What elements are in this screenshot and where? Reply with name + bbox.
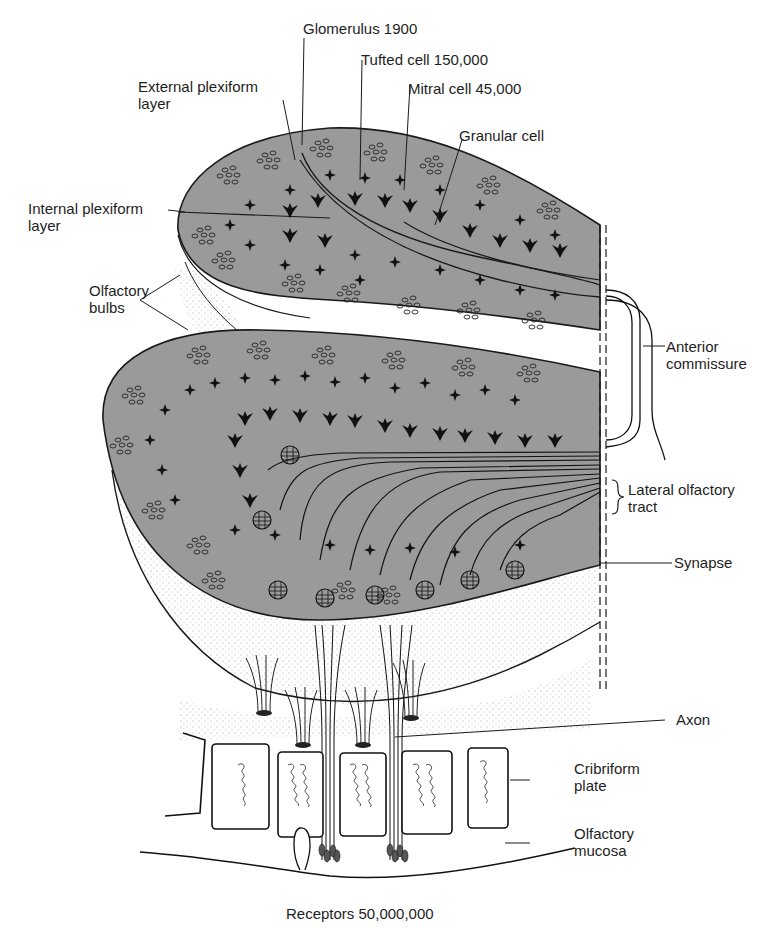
label-external-plexiform-layer: External plexiform layer <box>138 78 258 112</box>
label-line: commissure <box>666 355 747 372</box>
label-tufted-cell: Tufted cell 150,000 <box>361 51 488 68</box>
olfactory-mucosa-surface <box>140 848 575 878</box>
label-olfactory-mucosa: Olfactory mucosa <box>574 825 634 859</box>
lateral-tract-brace <box>612 480 624 514</box>
label-mitral-cell: Mitral cell 45,000 <box>408 80 521 97</box>
label-line: Cribriform <box>574 760 640 777</box>
label-glomerulus: Glomerulus 1900 <box>303 20 417 37</box>
label-line: Anterior <box>666 338 747 355</box>
olfactory-bulb-diagram <box>0 0 766 928</box>
label-line: Lateral olfactory <box>628 481 735 498</box>
label-line: Olfactory <box>574 825 634 842</box>
receptor-cells <box>319 844 408 862</box>
label-anterior-commissure: Anterior commissure <box>666 338 747 372</box>
label-line: Olfactory <box>89 282 149 299</box>
label-receptors: Receptors 50,000,000 <box>286 905 434 922</box>
cribriform-plate <box>165 733 508 837</box>
label-cribriform-plate: Cribriform plate <box>574 760 640 794</box>
label-granular-cell: Granular cell <box>459 127 544 144</box>
label-line: layer <box>138 95 258 112</box>
label-internal-plexiform-layer: Internal plexiform layer <box>28 200 143 234</box>
goblet-cell <box>294 828 310 870</box>
label-lateral-olfactory-tract: Lateral olfactory tract <box>628 481 735 515</box>
label-line: bulbs <box>89 299 149 316</box>
label-synapse: Synapse <box>674 554 732 571</box>
label-line: layer <box>28 217 143 234</box>
label-line: mucosa <box>574 842 634 859</box>
label-axon: Axon <box>676 711 710 728</box>
label-olfactory-bulbs: Olfactory bulbs <box>89 282 149 316</box>
label-line: tract <box>628 498 735 515</box>
label-line: External plexiform <box>138 78 258 95</box>
anterior-commissure-fibers <box>606 290 665 460</box>
label-line: Internal plexiform <box>28 200 143 217</box>
label-line: plate <box>574 777 640 794</box>
